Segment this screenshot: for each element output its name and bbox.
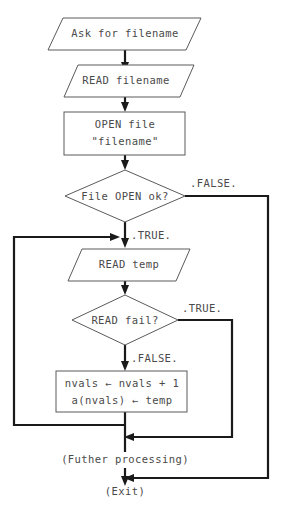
node-file-open-ok-decision[interactable]: File OPEN ok? <box>65 170 185 222</box>
connector-read-temp-to-decision <box>121 281 129 295</box>
connector-open-to-decision <box>121 155 129 170</box>
node-assignment-line2: a(nvals) ← temp <box>72 394 173 406</box>
node-read-filename[interactable]: READ filename <box>64 65 194 97</box>
node-ask-for-filename[interactable]: Ask for filename <box>48 18 201 50</box>
node-file-open-ok-label: File OPEN ok? <box>81 190 168 202</box>
node-exit-label: (Exit) <box>105 485 145 497</box>
node-ask-for-filename-label: Ask for filename <box>71 27 179 39</box>
node-open-file-line1: OPEN file <box>95 118 156 130</box>
branch-label-open-true: .TRUE. <box>131 229 171 241</box>
node-read-fail-label: READ fail? <box>91 314 158 326</box>
branch-label-fail-true: .TRUE. <box>182 302 222 314</box>
flowchart-canvas: Ask for filename READ filename OPEN file… <box>0 0 283 510</box>
node-read-filename-label: READ filename <box>82 74 169 86</box>
connector-read-filename-to-open <box>121 97 129 112</box>
node-further-processing-label: (Futher processing) <box>61 453 189 465</box>
flowchart-diagram: Ask for filename READ filename OPEN file… <box>0 0 283 510</box>
connector-open-true-branch <box>121 222 129 248</box>
branch-label-fail-false: .FALSE. <box>131 352 178 364</box>
connector-fail-false-branch <box>121 345 129 371</box>
node-assignment-line1: nvals ← nvals + 1 <box>65 377 179 389</box>
node-read-temp[interactable]: READ temp <box>68 249 190 281</box>
branch-label-open-false: .FALSE. <box>190 177 237 189</box>
node-open-file-line2: "filename" <box>91 135 158 147</box>
node-read-temp-label: READ temp <box>99 258 160 270</box>
node-read-fail-decision[interactable]: READ fail? <box>72 295 178 345</box>
node-open-file[interactable]: OPEN file "filename" <box>64 112 185 155</box>
node-assignment-box[interactable]: nvals ← nvals + 1 a(nvals) ← temp <box>56 371 187 412</box>
